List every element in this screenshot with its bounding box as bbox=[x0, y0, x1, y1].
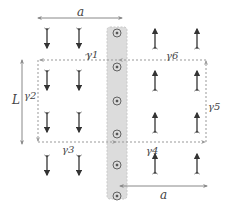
arrow-up-icon bbox=[153, 113, 158, 133]
arrow-up-icon bbox=[195, 29, 200, 49]
label-gamma5: γ5 bbox=[208, 102, 220, 112]
diagram-canvas bbox=[0, 0, 230, 204]
arrow-down-icon bbox=[77, 70, 82, 90]
arrow-down-icon bbox=[45, 155, 50, 175]
label-gamma1: γ1 bbox=[86, 50, 98, 60]
arrow-up-icon bbox=[153, 29, 158, 49]
label-a-bottom: a bbox=[160, 189, 167, 201]
arrow-down-icon bbox=[77, 155, 82, 175]
arrow-up-icon bbox=[195, 71, 200, 91]
domain-wall-strip bbox=[107, 27, 127, 199]
arrow-up-icon bbox=[153, 154, 158, 174]
arrow-down-icon bbox=[45, 112, 50, 132]
arrow-down-icon bbox=[77, 28, 82, 48]
arrow-up-icon bbox=[195, 113, 200, 133]
label-L: L bbox=[12, 94, 20, 106]
arrow-down-icon bbox=[77, 112, 82, 132]
label-a-top: a bbox=[77, 6, 84, 18]
label-gamma3: γ3 bbox=[62, 145, 74, 155]
label-gamma2: γ2 bbox=[24, 91, 36, 101]
label-gamma6: γ6 bbox=[166, 51, 178, 61]
arrow-up-icon bbox=[153, 71, 158, 91]
arrow-up-icon bbox=[195, 154, 200, 174]
label-gamma4: γ4 bbox=[146, 146, 158, 156]
arrow-down-icon bbox=[45, 28, 50, 48]
arrow-down-icon bbox=[45, 70, 50, 90]
